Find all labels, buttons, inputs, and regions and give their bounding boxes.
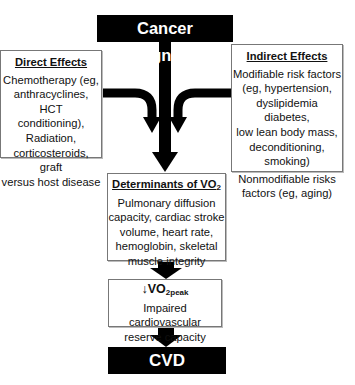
vo2peak-line: reserve capacity (109, 330, 221, 345)
modifiable-line: deconditioning, (232, 140, 342, 155)
cancer-diagnosis-label: Cancer Diagnosis (126, 19, 205, 64)
nonmodifiable-line: Nonmodifiable risks (232, 172, 342, 187)
determinants-title: Determinants of VO2 (108, 177, 225, 196)
vo2peak-title: ↓VO2peak (109, 282, 221, 301)
indirect-effects-box: Indirect Effects Modifiable risk factors… (231, 44, 343, 172)
determinants-line: muscle integrity (108, 254, 225, 269)
modifiable-line: Modifiable risk factors (232, 67, 342, 82)
main-arrowhead (152, 152, 178, 172)
modifiable-line: (eg, hypertension, (232, 81, 342, 96)
right-branch-arrow (178, 93, 231, 118)
determinants-box: Determinants of VO2 Pulmonary diffusion … (107, 173, 226, 261)
direct-effects-line: corticosteroids, graft (1, 146, 101, 175)
nonmodifiable-line: factors (eg, aging) (232, 186, 342, 201)
cvd-box: CVD (108, 347, 226, 374)
direct-effects-line: Chemotherapy (eg, (1, 73, 101, 88)
cvd-label: CVD (149, 351, 185, 370)
modifiable-line: dyslipidemia diabetes, (232, 96, 342, 125)
direct-effects-line: anthracyclines, HCT (1, 87, 101, 116)
vo2peak-line: Impaired cardiovascular (109, 301, 221, 330)
direct-effects-title: Direct Effects (1, 55, 101, 70)
modifiable-line: low lean body mass, (232, 125, 342, 140)
cancer-diagnosis-box: Cancer Diagnosis (97, 15, 233, 42)
determinants-line: volume, heart rate, (108, 225, 225, 240)
direct-effects-line: versus host disease (1, 175, 101, 190)
vo2peak-box: ↓VO2peak Impaired cardiovascular reserve… (108, 279, 222, 327)
left-branch-arrow (102, 93, 152, 118)
indirect-effects-title: Indirect Effects (232, 49, 342, 64)
direct-effects-line: Radiation, (1, 131, 101, 146)
right-branch-arrowhead (169, 117, 187, 133)
modifiable-line: smoking) (232, 154, 342, 169)
determinants-line: capacity, cardiac stroke (108, 210, 225, 225)
left-branch-arrowhead (143, 117, 161, 133)
determinants-line: hemoglobin, skeletal (108, 239, 225, 254)
direct-effects-box: Direct Effects Chemotherapy (eg, anthrac… (0, 50, 102, 158)
determinants-line: Pulmonary diffusion (108, 196, 225, 211)
direct-effects-line: conditioning), (1, 116, 101, 131)
arrow-2-head (150, 268, 182, 279)
